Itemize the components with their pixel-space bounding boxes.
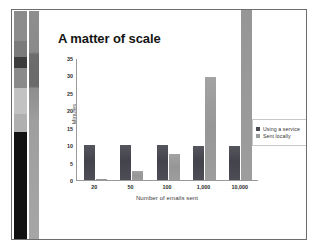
bar-group-1000 xyxy=(193,59,216,180)
y-axis-tick-15: 15 xyxy=(67,126,73,132)
bar-50-series-0 xyxy=(120,145,131,180)
photo-segment-gray-top xyxy=(14,11,27,41)
y-axis-tick-labels: 05101520253035 xyxy=(58,59,74,181)
x-axis-tick-50: 50 xyxy=(128,184,134,190)
bar-group-20 xyxy=(84,59,107,180)
photo-segment-light-lines xyxy=(14,88,27,113)
bar-group-50 xyxy=(120,59,143,180)
bar-10000-series-1 xyxy=(241,9,252,180)
bar-100-series-1 xyxy=(169,154,180,180)
bar-group-100 xyxy=(157,59,180,180)
legend-label-1: Sent locally xyxy=(263,133,291,139)
plot-area xyxy=(76,59,258,181)
bar-group-10000 xyxy=(229,59,252,180)
x-axis-title: Number of emails sent xyxy=(76,195,258,201)
legend-label-0: Using a service xyxy=(263,126,300,132)
plot-bars-container xyxy=(77,59,258,180)
photo-segment-gray xyxy=(14,68,27,89)
bar-20-series-0 xyxy=(84,145,95,180)
bar-1000-series-1 xyxy=(205,77,216,180)
photo-segment-mid-gray xyxy=(14,41,27,57)
decorative-gray-band xyxy=(29,11,39,239)
legend-swatch-icon-1 xyxy=(256,134,260,138)
y-axis-tick-5: 5 xyxy=(70,161,73,167)
photo-segment-pale xyxy=(14,114,27,132)
legend-item-1: Sent locally xyxy=(256,133,304,139)
presentation-slide: A matter of scale Minutes 05101520253035… xyxy=(11,9,307,240)
x-axis-tick-100: 100 xyxy=(163,184,172,190)
x-axis-tick-1000: 1,000 xyxy=(197,184,211,190)
slide-content-area: A matter of scale Minutes 05101520253035… xyxy=(40,11,306,239)
x-axis-tick-20: 20 xyxy=(91,184,97,190)
y-axis-tick-20: 20 xyxy=(67,108,73,114)
bar-1000-series-0 xyxy=(193,146,204,180)
bar-20-series-1 xyxy=(96,179,107,180)
photo-segment-black xyxy=(14,132,27,239)
y-axis-tick-0: 0 xyxy=(70,178,73,184)
legend-swatch-icon-0 xyxy=(256,127,260,131)
bar-50-series-1 xyxy=(132,171,143,180)
x-axis-tick-10000: 10,000 xyxy=(232,184,249,190)
y-axis-tick-35: 35 xyxy=(67,56,73,62)
y-axis-tick-25: 25 xyxy=(67,91,73,97)
y-axis-tick-10: 10 xyxy=(67,143,73,149)
photo-segment-dark xyxy=(14,57,27,68)
legend-item-0: Using a service xyxy=(256,126,304,132)
chart-legend: Using a serviceSent locally xyxy=(252,119,307,146)
bar-chart: Minutes 05101520253035 20501001,00010,00… xyxy=(58,59,258,209)
x-axis-tick-labels: 20501001,00010,000 xyxy=(76,183,258,195)
bar-100-series-0 xyxy=(157,145,168,180)
y-axis-tick-30: 30 xyxy=(67,73,73,79)
bar-10000-series-0 xyxy=(229,146,240,180)
slide-title: A matter of scale xyxy=(58,31,161,46)
decorative-photo-strip xyxy=(14,11,27,239)
